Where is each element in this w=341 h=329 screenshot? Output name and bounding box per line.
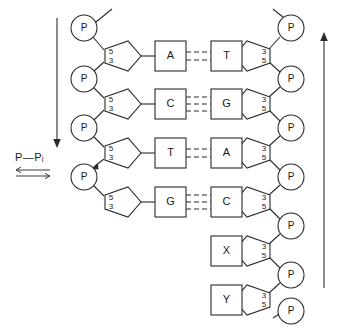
base-letter: T: [223, 49, 230, 61]
phosphate-label: P: [288, 305, 295, 316]
sugar-3prime-label: 3: [109, 153, 114, 162]
sugar-5prime-label: 5: [109, 193, 114, 202]
phosphate-label: P: [288, 220, 295, 231]
right-base-4: C: [211, 187, 242, 217]
sugar-5prime-label: 5: [262, 202, 267, 211]
left-phosphate-3: P: [71, 115, 97, 141]
phosphate-label: P: [288, 73, 295, 84]
left-direction-arrow: [53, 18, 61, 148]
sugar-5prime-label: 5: [109, 47, 114, 56]
right-base-3: A: [211, 138, 242, 168]
right-phosphate-3: P: [278, 115, 304, 141]
phosphate-label: P: [81, 171, 88, 182]
sugar-5prime-label: 5: [109, 144, 114, 153]
left-phosphate-2: P: [71, 66, 97, 92]
right-base-6: Y: [211, 285, 242, 315]
sugar-3prime-label: 3: [262, 47, 267, 56]
sugar-3prime-label: 3: [109, 56, 114, 65]
sugar-5prime-label: 5: [262, 300, 267, 309]
sugar-3prime-label: 3: [262, 193, 267, 202]
right-phosphate-7: P: [278, 298, 304, 324]
sugar-3prime-label: 3: [262, 291, 267, 300]
phosphate-label: P: [288, 22, 295, 33]
dna-replication-diagram: P—Pᵢ: [0, 0, 341, 329]
left-base-1: A: [155, 41, 186, 71]
left-base-3: T: [155, 138, 186, 168]
sugar-5prime-label: 5: [262, 104, 267, 113]
hydrogen-bonds: [186, 52, 211, 209]
base-letter: A: [223, 146, 231, 158]
left-phosphate-4: P: [71, 164, 97, 190]
sugar-3prime-label: 3: [109, 202, 114, 211]
left-phosphate-1: P: [71, 15, 97, 41]
phosphate-label: P: [81, 22, 88, 33]
right-phosphate-4: P: [278, 164, 304, 190]
right-phosphate-5: P: [278, 213, 304, 239]
base-letter: C: [167, 97, 175, 109]
phosphate-label: P: [288, 269, 295, 280]
right-phosphate-1: P: [278, 15, 304, 41]
left-sugar-2: 5 3: [105, 89, 155, 119]
hydrogen-bond-group-2: [186, 97, 211, 111]
hydrogen-bond-group-1: [186, 52, 211, 60]
right-direction-arrow: [320, 32, 328, 288]
base-letter: G: [222, 97, 231, 109]
sugar-5prime-label: 5: [109, 95, 114, 104]
right-phosphate-6: P: [278, 262, 304, 288]
base-letter: G: [166, 195, 175, 207]
base-letter: X: [223, 244, 231, 256]
right-strand: P P P P P P P: [211, 9, 304, 324]
base-letter: C: [223, 195, 231, 207]
left-sugar-3: 5 3: [105, 138, 155, 168]
base-letter: A: [167, 49, 175, 61]
phosphate-label: P: [288, 122, 295, 133]
sugar-3prime-label: 3: [262, 242, 267, 251]
sugar-3prime-label: 3: [109, 104, 114, 113]
left-strand-free-end: [96, 9, 112, 22]
phosphate-label: P: [288, 171, 295, 182]
sugar-5prime-label: 5: [262, 153, 267, 162]
equilibrium-arrows-icon: [16, 167, 50, 179]
diagram-canvas: P—Pᵢ: [0, 0, 341, 329]
phosphate-label: P: [81, 122, 88, 133]
sugar-5prime-label: 5: [262, 56, 267, 65]
right-base-5: X: [211, 236, 242, 266]
hydrogen-bond-group-3: [186, 149, 211, 157]
left-base-2: C: [155, 89, 186, 119]
base-letter: T: [167, 146, 174, 158]
left-sugar-1: 5 3: [105, 41, 155, 71]
hydrogen-bond-group-4: [186, 195, 211, 209]
pyrophosphate-reaction-label: P—Pᵢ: [15, 151, 50, 179]
base-letter: Y: [223, 293, 231, 305]
phosphate-label: P: [81, 73, 88, 84]
left-base-4: G: [155, 187, 186, 217]
sugar-5prime-label: 5: [262, 251, 267, 260]
right-base-2: G: [211, 89, 242, 119]
sugar-3prime-label: 3: [262, 144, 267, 153]
right-phosphate-2: P: [278, 66, 304, 92]
sugar-3prime-label: 3: [262, 95, 267, 104]
left-sugar-4: 5 3: [105, 187, 155, 217]
right-base-1: T: [211, 41, 242, 71]
reaction-label-text: P—Pᵢ: [15, 151, 44, 163]
left-strand: P P P P 5 3: [71, 9, 186, 217]
